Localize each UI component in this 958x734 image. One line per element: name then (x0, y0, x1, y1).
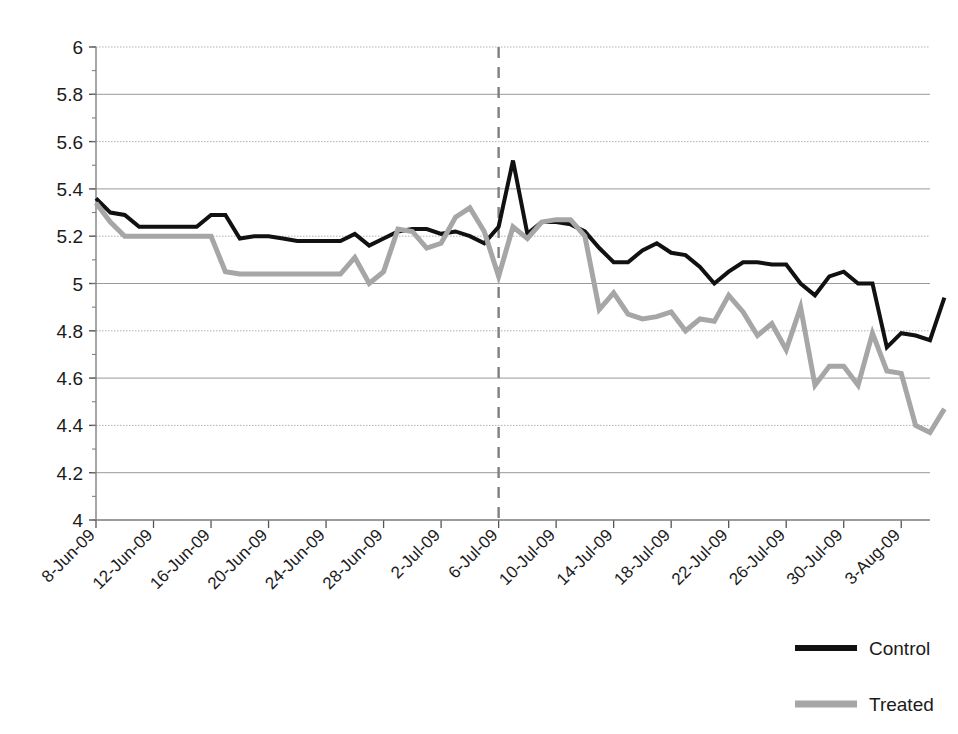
x-tick-label: 14-Jul-09 (553, 525, 617, 589)
series-line-treated (96, 203, 944, 432)
x-tick-label: 28-Jun-09 (319, 525, 387, 593)
x-tick-label: 10-Jul-09 (495, 525, 559, 589)
legend-label-treated: Treated (869, 694, 934, 715)
y-tick-label: 6 (72, 37, 83, 58)
line-chart: 65.85.65.45.254.84.64.44.24 8-Jun-0912-J… (0, 0, 958, 734)
x-tick-label: 12-Jun-09 (89, 525, 157, 593)
x-axis-ticks: 8-Jun-0912-Jun-0916-Jun-0920-Jun-0924-Ju… (38, 520, 904, 593)
y-tick-label: 5 (72, 274, 83, 295)
y-tick-label: 4.8 (57, 321, 83, 342)
y-tick-label: 5.2 (57, 226, 83, 247)
series-layer (96, 161, 944, 433)
gridlines (96, 47, 930, 520)
y-tick-label: 4.4 (57, 415, 84, 436)
y-tick-label: 4.6 (57, 368, 83, 389)
x-tick-label: 18-Jul-09 (610, 525, 674, 589)
x-tick-label: 22-Jul-09 (668, 525, 732, 589)
legend-label-control: Control (869, 638, 930, 659)
y-tick-label: 4.2 (57, 463, 83, 484)
x-tick-label: 30-Jul-09 (783, 525, 847, 589)
x-tick-label: 8-Jun-09 (38, 525, 99, 586)
chart-container: ln(pirated downloads), predicted 65.85.6… (0, 0, 958, 734)
x-tick-label: 26-Jul-09 (725, 525, 789, 589)
x-tick-label: 2-Jul-09 (387, 525, 444, 582)
y-axis-ticks: 65.85.65.45.254.84.64.44.24 (57, 37, 96, 531)
y-tick-label: 5.8 (57, 84, 83, 105)
x-tick-label: 6-Jul-09 (445, 525, 502, 582)
y-tick-label: 5.6 (57, 132, 83, 153)
x-tick-label: 3-Aug-09 (841, 525, 904, 588)
y-tick-label: 5.4 (57, 179, 84, 200)
chart-legend: ControlTreated (795, 638, 934, 715)
x-tick-label: 16-Jun-09 (146, 525, 214, 593)
x-tick-label: 24-Jun-09 (261, 525, 329, 593)
x-tick-label: 20-Jun-09 (204, 525, 272, 593)
